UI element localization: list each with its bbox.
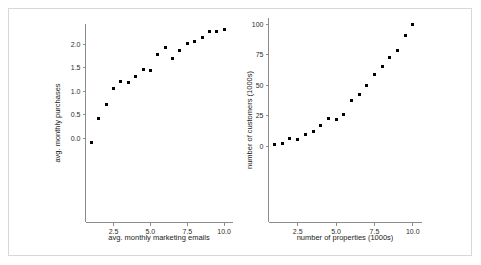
data-point xyxy=(365,84,368,87)
y-tick-group-right: 0255075100 xyxy=(252,21,269,150)
data-point xyxy=(215,30,218,33)
y-tick-label: 0 xyxy=(260,143,264,150)
axes-right xyxy=(269,18,423,223)
data-point xyxy=(164,46,167,49)
y-tick-group-left: 0.00.51.01.52.0 xyxy=(71,41,86,142)
y-tick-label: 100 xyxy=(252,21,264,28)
data-point xyxy=(304,133,307,136)
data-point xyxy=(149,69,152,72)
y-axis-title-left: avg. monthly purchases xyxy=(53,83,62,162)
data-point xyxy=(156,53,159,56)
data-point xyxy=(335,118,338,121)
y-tick-label: 50 xyxy=(256,82,264,89)
data-point xyxy=(381,65,384,68)
data-point xyxy=(112,87,115,90)
data-point xyxy=(97,117,100,120)
data-point xyxy=(223,28,226,31)
data-point xyxy=(312,130,315,133)
scatter-panel-left: 2.55.07.510.0 0.00.51.01.52.0 avg. month… xyxy=(0,0,240,265)
data-point-group-right xyxy=(273,23,414,146)
scatter-plot-left: 2.55.07.510.0 0.00.51.01.52.0 avg. month… xyxy=(0,0,240,265)
data-point-group-left xyxy=(90,28,226,144)
x-tick-label: 10.0 xyxy=(217,228,231,235)
data-point xyxy=(342,113,345,116)
data-point xyxy=(288,137,291,140)
data-point xyxy=(296,138,299,141)
scatter-panel-right: 2.55.07.510.0 0255075100 number of prope… xyxy=(240,0,481,265)
data-point xyxy=(142,68,145,71)
y-tick-label: 2.0 xyxy=(71,41,81,48)
scatter-plot-right: 2.55.07.510.0 0255075100 number of prope… xyxy=(240,0,481,265)
data-point xyxy=(208,30,211,33)
x-tick-label: 10.0 xyxy=(406,228,420,235)
data-point xyxy=(327,117,330,120)
data-point xyxy=(90,141,93,144)
y-axis-title-right: number of customers (1000s) xyxy=(245,71,254,169)
data-point xyxy=(273,143,276,146)
y-tick-label: 75 xyxy=(256,51,264,58)
data-point xyxy=(119,80,122,83)
data-point xyxy=(388,56,391,59)
data-point xyxy=(350,99,353,102)
data-point xyxy=(396,49,399,52)
data-point xyxy=(178,49,181,52)
data-point xyxy=(411,23,414,26)
data-point xyxy=(281,142,284,145)
y-tick-label: 1.5 xyxy=(71,64,81,71)
data-point xyxy=(105,103,108,106)
y-tick-label: 1.0 xyxy=(71,88,81,95)
data-point xyxy=(358,93,361,96)
data-point xyxy=(127,81,130,84)
data-point xyxy=(319,124,322,127)
data-point xyxy=(373,73,376,76)
x-axis-title-right: number of properties (1000s) xyxy=(297,233,394,242)
data-point xyxy=(171,57,174,60)
data-point xyxy=(134,75,137,78)
data-point xyxy=(201,36,204,39)
data-point xyxy=(193,40,196,43)
y-tick-label: 25 xyxy=(256,112,264,119)
y-tick-label: 0.5 xyxy=(71,111,81,118)
y-tick-label: 0.0 xyxy=(71,135,81,142)
x-axis-title-left: avg. monthly marketing emails xyxy=(108,233,210,242)
data-point xyxy=(186,42,189,45)
figure-canvas: 2.55.07.510.0 0.00.51.01.52.0 avg. month… xyxy=(0,0,481,265)
data-point xyxy=(404,34,407,37)
